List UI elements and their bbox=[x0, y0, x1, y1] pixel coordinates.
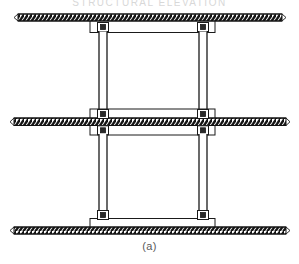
joint-floor-left-upper-bolt bbox=[101, 112, 106, 117]
column-upper-right bbox=[199, 32, 207, 111]
floor-slab bbox=[10, 118, 290, 126]
column-upper-right-body bbox=[199, 32, 207, 110]
column-upper-left-body bbox=[99, 32, 107, 110]
roof-slab-hatch bbox=[18, 14, 282, 21]
base-level-group bbox=[10, 211, 290, 235]
column-lower-left-body bbox=[99, 134, 107, 220]
joint-floor-left-upper bbox=[98, 110, 109, 119]
upper-story-columns bbox=[99, 32, 207, 111]
column-lower-right-body bbox=[199, 134, 207, 220]
joint-base-left bbox=[98, 211, 109, 220]
roof-slab-left-cap bbox=[14, 14, 18, 21]
roof-level-group bbox=[14, 14, 286, 33]
joint-base-right-bolt bbox=[201, 213, 206, 218]
joint-floor-right-upper bbox=[198, 110, 209, 119]
base-slab-left-cap bbox=[10, 227, 14, 234]
joint-roof-left-bolt bbox=[101, 25, 106, 30]
base-slab-right-cap bbox=[286, 227, 290, 234]
base-slab-hatch bbox=[14, 227, 286, 234]
joint-base-left-bolt bbox=[101, 213, 106, 218]
floor-slab-hatch bbox=[14, 118, 286, 126]
joint-roof-right-bolt bbox=[201, 25, 206, 30]
column-lower-left bbox=[99, 134, 107, 220]
joint-floor-right-upper-bolt bbox=[201, 112, 206, 117]
roof-slab bbox=[14, 14, 286, 21]
joint-roof-left bbox=[98, 23, 109, 32]
floor-slab-left-cap bbox=[10, 118, 14, 126]
column-upper-left bbox=[99, 32, 107, 111]
joint-base-right bbox=[198, 211, 209, 220]
structural-elevation-drawing bbox=[0, 0, 299, 264]
figure-container: STRUCTURAL ELEVATION bbox=[0, 0, 299, 264]
column-lower-right bbox=[199, 134, 207, 220]
figure-caption: (a) bbox=[0, 240, 299, 252]
floor-slab-right-cap bbox=[286, 118, 290, 126]
joint-floor-left-lower bbox=[98, 126, 109, 135]
joint-floor-right-lower bbox=[198, 126, 209, 135]
floor-level-group bbox=[10, 109, 290, 135]
base-slab bbox=[10, 227, 290, 234]
joint-floor-left-lower-bolt bbox=[101, 128, 106, 133]
roof-slab-right-cap bbox=[282, 14, 286, 21]
joint-roof-right bbox=[198, 23, 209, 32]
joint-floor-right-lower-bolt bbox=[201, 128, 206, 133]
lower-story-columns bbox=[99, 134, 207, 220]
